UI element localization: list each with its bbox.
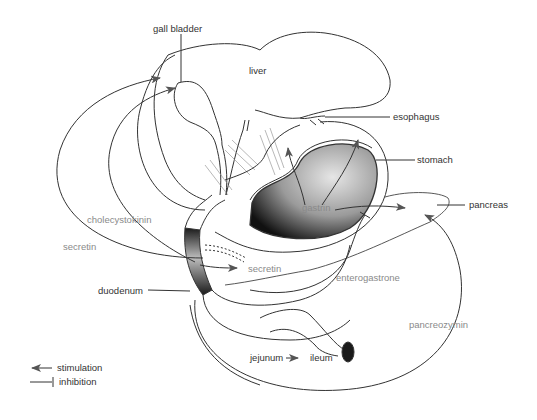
inhibition-bar-icon [30, 377, 53, 387]
gall-bladder-outline [178, 81, 222, 145]
label-secretin-center: secretin [248, 264, 281, 274]
secretin-center-arrow [200, 265, 237, 268]
label-liver: liver [249, 66, 266, 76]
ileum-tube [260, 309, 345, 356]
legend-inhibition-label: inhibition [59, 377, 97, 387]
label-duodenum: duodenum [98, 286, 143, 296]
label-enterogastrone: enterogastrone [336, 273, 400, 283]
label-pancreozymin: pancreozymin [409, 320, 468, 330]
label-esophagus: esophagus [393, 112, 439, 122]
legend-stimulation-label: stimulation [57, 363, 102, 373]
legend [30, 368, 53, 387]
label-gall-bladder: gall bladder [153, 24, 202, 34]
label-jejunum: jejunum [250, 353, 283, 363]
cholecystokinin-pathway [109, 88, 195, 262]
label-cholecystokinin: cholecystokinin [87, 215, 151, 225]
secretin-pathway [57, 78, 203, 258]
liver-outline [168, 32, 390, 118]
label-pancreas: pancreas [469, 200, 508, 210]
duodenum-outline [185, 228, 212, 295]
label-stomach: stomach [417, 155, 453, 165]
label-secretin-left: secretin [63, 242, 96, 252]
label-ileum: ileum [310, 353, 333, 363]
stomach-lumen [250, 144, 377, 239]
ileum-opening [342, 342, 354, 362]
label-gastrin: gastrin [302, 203, 331, 213]
